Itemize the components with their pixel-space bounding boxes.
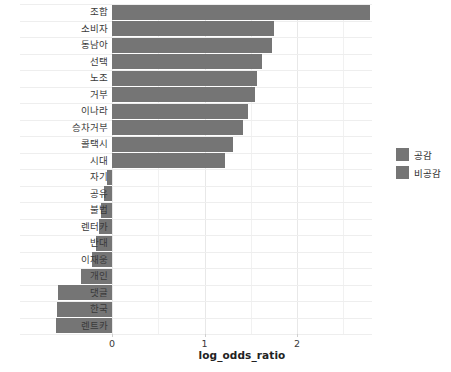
legend-swatch-icon [396,166,409,179]
y-axis-label: 선택 [2,56,108,67]
log-odds-ratio-bar-chart: 조합소비자동남아선택노조거부이나라승차거부콜택시시대자기공유불법렌터카반대이재웅… [0,0,451,372]
y-axis-label: 불법 [2,204,108,215]
bar [112,71,257,86]
bar [112,104,248,119]
y-axis-label: 이나라 [2,105,108,116]
y-axis-label: 승차거부 [2,122,108,133]
x-tick-mark [297,334,298,337]
legend: 공감비공감 [396,146,451,182]
y-axis-labels: 조합소비자동남아선택노조거부이나라승차거부콜택시시대자기공유불법렌터카반대이재웅… [0,0,108,340]
y-axis-label: 공유 [2,188,108,199]
legend-label: 공감 [414,148,432,162]
x-tick-label: 2 [294,338,300,349]
bar [112,21,274,36]
x-tick-label: 0 [109,338,115,349]
y-axis-label: 이재웅 [2,254,108,265]
bar [112,153,225,168]
x-axis-title: log_odds_ratio [112,349,372,361]
bar [112,54,262,69]
y-axis-label: 콜택시 [2,138,108,149]
bar [112,87,255,102]
y-axis-label: 거부 [2,89,108,100]
y-axis-label: 댓글 [2,287,108,298]
bar [112,38,272,53]
y-axis-label: 소비자 [2,23,108,34]
y-axis-label: 노조 [2,72,108,83]
y-axis-label: 자기 [2,171,108,182]
y-axis-label: 개인 [2,270,108,281]
legend-item[interactable]: 공감 [396,146,451,163]
bar [107,170,112,185]
legend-swatch-icon [396,148,409,161]
bar [112,5,370,20]
y-axis-label: 조합 [2,6,108,17]
y-axis-label: 시대 [2,155,108,166]
legend-label: 비공감 [414,166,441,180]
legend-item[interactable]: 비공감 [396,164,451,181]
x-tick-label: 1 [201,338,207,349]
bar [112,120,243,135]
y-axis-label: 반대 [2,237,108,248]
y-axis-label: 동남아 [2,39,108,50]
y-axis-label: 한국 [2,303,108,314]
plot-area: 조합소비자동남아선택노조거부이나라승차거부콜택시시대자기공유불법렌터카반대이재웅… [0,0,451,372]
x-tick-mark [205,334,206,337]
y-axis-label: 렌터카 [2,221,108,232]
y-axis-label: 렌트카 [2,320,108,331]
bar [112,137,233,152]
x-tick-mark [112,334,113,337]
